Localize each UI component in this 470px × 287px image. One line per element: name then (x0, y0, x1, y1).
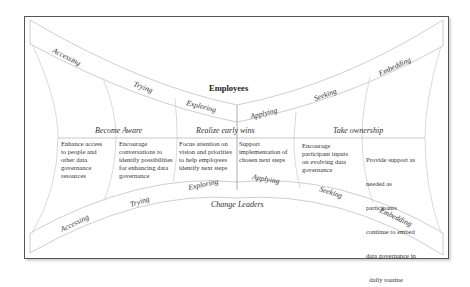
action-line: resources (61, 172, 115, 180)
action-line: continue to embed (366, 228, 426, 236)
phase-realize-early-wins: Realize early wins (196, 126, 255, 135)
action-line: participant inputs (302, 150, 360, 158)
action-cell-5: Encourage participant inputs on evolving… (302, 142, 360, 174)
action-line: needed as (366, 180, 426, 188)
action-cell-6: Provide support as needed as participant… (366, 140, 426, 287)
top-stage-applying: Applying (248, 106, 278, 122)
action-line: vision and priorities (179, 148, 237, 156)
action-line: governance (302, 166, 360, 174)
bottom-stage-seeking: Seeking (318, 184, 343, 200)
action-line: identify next steps (179, 164, 237, 172)
change-leaders-title: Change Leaders (211, 200, 264, 209)
action-line: Support (239, 140, 295, 148)
action-line: Provide support as (366, 156, 426, 164)
action-line: participants (366, 204, 426, 212)
action-cell-2: Encourage conversations to identify poss… (119, 140, 177, 180)
action-cell-1: Enhance access to people and other data … (61, 140, 115, 180)
action-line: identify possibilities (119, 156, 177, 164)
action-line: Focus attention on (179, 140, 237, 148)
top-stage-accessing: Accessing (50, 45, 82, 67)
bottom-stage-applying: Applying (251, 172, 281, 186)
action-line: governance (119, 172, 177, 180)
bottom-stage-exploring: Exploring (187, 177, 220, 192)
action-line: on evolving data (302, 158, 360, 166)
action-line: Encourage (119, 140, 177, 148)
action-line: data governance in (366, 252, 426, 260)
action-line: Enhance access (61, 140, 115, 148)
action-line: chosen next steps (239, 156, 295, 164)
action-line: conversations to (119, 148, 177, 156)
top-stage-exploring: Exploring (185, 98, 218, 114)
action-line: for enhancing data (119, 164, 177, 172)
phase-take-ownership: Take ownership (333, 126, 383, 135)
top-stage-seeking: Seeking (313, 86, 338, 103)
action-line: daily routine (366, 276, 426, 284)
phase-become-aware: Become Aware (95, 126, 142, 135)
bottom-stage-accessing: Accessing (58, 212, 90, 234)
action-cell-3: Focus attention on vision and priorities… (179, 140, 237, 172)
top-stage-embedding: Embedding (376, 55, 412, 78)
action-line: other data (61, 156, 115, 164)
action-cell-4: Support implementation of chosen next st… (239, 140, 295, 164)
action-line: governance (61, 164, 115, 172)
action-line: implementation of (239, 148, 295, 156)
action-line: to help employees (179, 156, 237, 164)
action-line: Encourage (302, 142, 360, 150)
action-line: to people and (61, 148, 115, 156)
employees-title: Employees (209, 83, 248, 93)
